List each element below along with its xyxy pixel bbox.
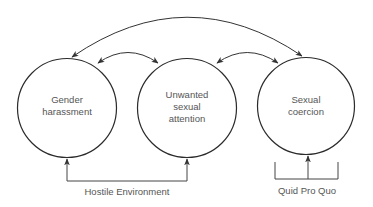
node-label-line: attention bbox=[169, 113, 205, 124]
node-sexual-coercion: Sexual coercion bbox=[258, 58, 355, 155]
bracket-line bbox=[275, 162, 338, 179]
node-label-line: Gender bbox=[51, 94, 83, 105]
node-unwanted-sexual-attention: Unwanted sexual attention bbox=[138, 59, 237, 158]
hostile-environment-bracket: Hostile Environment bbox=[67, 159, 187, 197]
arrow-gender-harassment-to-sexual-coercion bbox=[72, 17, 302, 57]
node-gender-harassment: Gender harassment bbox=[18, 59, 117, 158]
node-label-line: Unwanted bbox=[166, 89, 209, 100]
quid-pro-quo-label: Quid Pro Quo bbox=[278, 185, 336, 196]
harassment-types-diagram: Gender harassment Unwanted sexual attent… bbox=[0, 0, 373, 207]
node-label-line: Sexual bbox=[291, 94, 320, 105]
quid-pro-quo-bracket: Quid Pro Quo bbox=[275, 156, 338, 196]
node-label-line: coercion bbox=[288, 106, 324, 117]
hostile-environment-label: Hostile Environment bbox=[84, 186, 169, 197]
node-label-line: harassment bbox=[42, 106, 92, 117]
node-label-line: sexual bbox=[173, 101, 200, 112]
arrow-unwanted-attention-to-sexual-coercion bbox=[217, 53, 278, 64]
arrow-gender-harassment-to-unwanted-attention bbox=[98, 53, 158, 64]
